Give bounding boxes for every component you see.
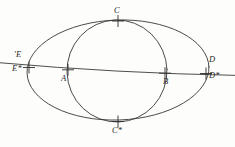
marker-E-star (23, 62, 35, 74)
transversal-line (0, 63, 235, 76)
point-label-C: C (114, 6, 120, 15)
outer-ellipse (25, 17, 210, 123)
point-label-E-star: E* (12, 64, 22, 73)
point-label-D: D (209, 55, 215, 64)
marker-C (112, 15, 124, 27)
geometry-figure: C 'E D E* A B D* C* (0, 0, 235, 147)
point-label-D-star: D* (209, 71, 220, 80)
point-label-E-prime: 'E (14, 50, 21, 59)
point-label-B: B (163, 77, 168, 86)
point-label-A: A (61, 74, 66, 83)
point-label-C-star: C* (112, 126, 122, 135)
